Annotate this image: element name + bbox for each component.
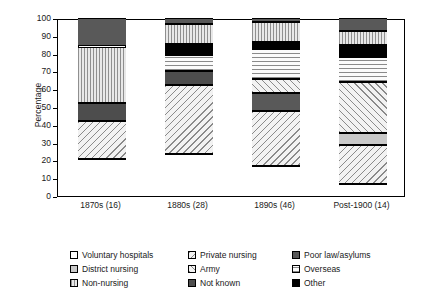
bar-segment-voluntary[interactable]: [78, 159, 126, 196]
bar-segment-voluntary[interactable]: [165, 154, 213, 196]
bar-segment-private[interactable]: [339, 145, 387, 183]
bar-segment-poorlaw[interactable]: [252, 18, 300, 22]
y-axis-ticks: 0102030405060708090100: [0, 19, 57, 197]
bar-segment-overseas[interactable]: [165, 55, 213, 72]
bar-segment-notknown[interactable]: [78, 103, 126, 121]
legend-item-district[interactable]: District nursing: [70, 264, 138, 274]
bar-segment-army[interactable]: [339, 82, 387, 133]
legend-swatch-private-icon: [188, 251, 196, 259]
plot-frame: [57, 19, 405, 197]
bar-segment-overseas[interactable]: [339, 57, 387, 82]
x-axis-labels: 1870s (16)1880s (28)1890s (46)Post-1900 …: [57, 200, 405, 218]
legend-swatch-nonnursing-icon: [70, 279, 78, 287]
legend-item-voluntary[interactable]: Voluntary hospitals: [70, 250, 153, 260]
stacked-bar-chart: Percentage 0102030405060708090100 1870s …: [0, 0, 422, 301]
bar-segment-district[interactable]: [339, 133, 387, 145]
bar-post-1900-14[interactable]: [339, 18, 387, 196]
bar-segment-notknown[interactable]: [165, 71, 213, 84]
x-tick-label: Post-1900 (14): [318, 200, 405, 210]
legend-item-overseas[interactable]: Overseas: [292, 264, 340, 274]
bar-segment-nonnursing[interactable]: [165, 24, 213, 44]
y-tick-label: 60: [42, 84, 51, 94]
legend-label: Army: [200, 264, 220, 274]
y-tick-mark: [53, 197, 57, 198]
y-tick-label: 40: [42, 120, 51, 130]
y-tick-label: 30: [42, 138, 51, 148]
bar-segment-poorlaw[interactable]: [252, 93, 300, 111]
x-tick-label: 1890s (46): [231, 200, 318, 210]
legend-swatch-army-icon: [188, 265, 196, 273]
legend-row: Non-nursingNot knownOther: [70, 278, 410, 291]
bar-segment-nonnursing[interactable]: [252, 22, 300, 42]
chart-legend: Voluntary hospitalsPrivate nursingPoor l…: [70, 250, 410, 296]
legend-label: Other: [304, 278, 325, 288]
legend-label: District nursing: [82, 264, 138, 274]
bar-segment-voluntary[interactable]: [252, 166, 300, 196]
legend-item-army[interactable]: Army: [188, 264, 220, 274]
bar-segment-other[interactable]: [252, 42, 300, 49]
bar-1890s-46[interactable]: [252, 18, 300, 196]
y-tick-label: 50: [42, 102, 51, 112]
bar-segment-nonnursing[interactable]: [339, 31, 387, 44]
bar-segment-nonnursing[interactable]: [78, 47, 126, 104]
legend-swatch-other-icon: [292, 279, 300, 287]
y-tick-label: 70: [42, 66, 51, 76]
bar-segment-poorlaw[interactable]: [165, 18, 213, 24]
legend-swatch-overseas-icon: [292, 265, 300, 273]
y-tick-label: 90: [42, 31, 51, 41]
bar-segment-private[interactable]: [78, 121, 126, 158]
bar-segment-other[interactable]: [165, 44, 213, 55]
legend-item-nonnursing[interactable]: Non-nursing: [70, 278, 128, 288]
y-tick-label: 10: [42, 173, 51, 183]
legend-item-notknown[interactable]: Not known: [188, 278, 240, 288]
bar-segment-poorlaw[interactable]: [339, 18, 387, 31]
legend-swatch-poorlaw-icon: [292, 251, 300, 259]
bar-segment-voluntary[interactable]: [339, 184, 387, 196]
legend-label: Private nursing: [200, 250, 257, 260]
bar-segment-overseas[interactable]: [252, 49, 300, 79]
bar-segment-army[interactable]: [252, 79, 300, 92]
legend-label: Not known: [200, 278, 240, 288]
legend-swatch-voluntary-icon: [70, 251, 78, 259]
legend-swatch-district-icon: [70, 265, 78, 273]
legend-swatch-notknown-icon: [188, 279, 196, 287]
x-tick-label: 1880s (28): [144, 200, 231, 210]
legend-row: District nursingArmyOverseas: [70, 264, 410, 277]
bar-segment-private[interactable]: [252, 111, 300, 166]
bar-segment-poorlaw[interactable]: [78, 18, 126, 46]
x-tick-label: 1870s (16): [57, 200, 144, 210]
y-tick-label: 20: [42, 155, 51, 165]
y-tick-label: 80: [42, 49, 51, 59]
legend-label: Non-nursing: [82, 278, 128, 288]
legend-label: Overseas: [304, 264, 340, 274]
legend-label: Poor law/asylums: [304, 250, 371, 260]
bar-1870s-16[interactable]: [78, 18, 126, 196]
legend-row: Voluntary hospitalsPrivate nursingPoor l…: [70, 250, 410, 263]
y-tick-label: 0: [46, 191, 51, 201]
plot-area-wrapper: Percentage 0102030405060708090100 1870s …: [0, 0, 422, 240]
y-tick-label: 100: [37, 13, 51, 23]
bar-segment-private[interactable]: [165, 85, 213, 154]
legend-item-other[interactable]: Other: [292, 278, 325, 288]
legend-item-private[interactable]: Private nursing: [188, 250, 257, 260]
legend-item-poorlaw[interactable]: Poor law/asylums: [292, 250, 371, 260]
bar-segment-other[interactable]: [339, 45, 387, 57]
legend-label: Voluntary hospitals: [82, 250, 153, 260]
bar-group: [58, 20, 404, 196]
bar-1880s-28[interactable]: [165, 18, 213, 196]
